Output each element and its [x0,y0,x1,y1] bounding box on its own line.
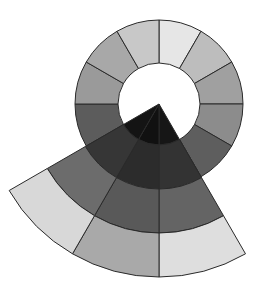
wedge-band-1-segment-1 [159,104,180,145]
color-wheel-diagram [0,0,261,292]
